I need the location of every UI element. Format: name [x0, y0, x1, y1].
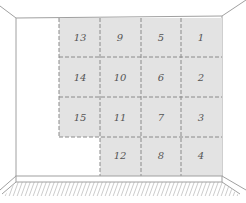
panel-label: 15 — [74, 112, 87, 123]
panel-label: 13 — [74, 32, 87, 43]
panel-label: 10 — [114, 72, 127, 83]
panel-label: 9 — [117, 32, 124, 43]
panel-label: 3 — [198, 112, 204, 123]
room-diagram: 13 9 5 1 14 10 6 2 15 11 7 3 12 8 4 — [0, 0, 246, 203]
panel-label: 2 — [197, 72, 204, 83]
floor — [4, 182, 240, 196]
room-perspective: 13 9 5 1 14 10 6 2 15 11 7 3 12 8 4 — [0, 0, 246, 203]
panel-label: 7 — [158, 112, 165, 123]
panel-label: 4 — [197, 150, 204, 161]
panel-label: 6 — [158, 72, 165, 83]
panel-label: 1 — [198, 32, 204, 43]
panel-label: 12 — [114, 150, 127, 161]
panel-label: 14 — [74, 72, 87, 83]
panel-label: 5 — [158, 32, 164, 43]
panel-label: 8 — [158, 150, 164, 161]
panel-label: 11 — [114, 112, 127, 123]
